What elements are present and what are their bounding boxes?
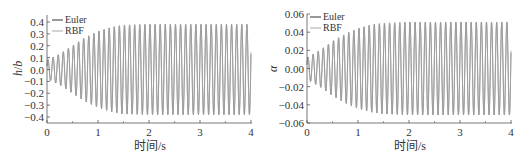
y-tick-label: −0.1	[24, 75, 44, 87]
right-y-label: α	[266, 65, 280, 72]
left-chart: 01234 0.40.30.20.10.0−0.1−0.2−0.3−0.4 Eu…	[11, 14, 254, 153]
y-tick-label: 0.4	[30, 16, 44, 28]
y-tick-label: −0.02	[279, 81, 304, 93]
x-tick-label: 0	[304, 126, 310, 138]
legend-euler-label: Euler	[323, 11, 345, 22]
right-legend: Euler RBF	[310, 11, 345, 33]
right-y-ticks: 0.060.040.020.00−0.02−0.04−0.06	[279, 8, 310, 129]
y-tick-label: −0.06	[279, 117, 305, 129]
left-y-label: h/b	[11, 61, 25, 76]
left-series-lines	[47, 24, 251, 114]
y-tick-label: 0.04	[285, 26, 305, 38]
y-tick-label: 0.06	[285, 8, 305, 20]
y-tick-label: −0.2	[24, 87, 44, 99]
x-tick-label: 4	[248, 126, 254, 138]
chart-canvas: 01234 0.40.30.20.10.0−0.1−0.2−0.3−0.4 Eu…	[0, 0, 523, 158]
x-tick-label: 1	[95, 126, 101, 138]
y-tick-label: 0.0	[30, 64, 44, 76]
x-tick-label: 2	[146, 126, 152, 138]
series-rbf-line	[47, 24, 251, 114]
y-tick-label: −0.3	[24, 99, 44, 111]
legend-rbf-label: RBF	[323, 22, 342, 33]
right-series-lines	[307, 22, 511, 115]
x-tick-label: 3	[197, 126, 203, 138]
x-tick-label: 1	[355, 126, 361, 138]
x-tick-label: 3	[457, 126, 463, 138]
y-tick-label: 0.2	[30, 40, 44, 52]
y-tick-label: 0.1	[30, 52, 44, 64]
y-tick-label: 0.3	[30, 28, 44, 40]
x-tick-label: 4	[508, 126, 514, 138]
legend-euler-label: Euler	[65, 14, 87, 25]
y-tick-label: 0.00	[285, 63, 305, 75]
y-tick-label: −0.4	[24, 111, 44, 123]
x-tick-label: 0	[44, 126, 50, 138]
series-rbf-line	[307, 22, 511, 114]
right-x-label: 时间/s	[394, 139, 426, 153]
y-tick-label: −0.04	[279, 99, 305, 111]
left-legend: Euler RBF	[52, 14, 87, 36]
x-tick-label: 2	[406, 126, 412, 138]
right-chart: 01234 0.060.040.020.00−0.02−0.04−0.06 Eu…	[266, 8, 514, 153]
y-tick-label: 0.02	[285, 44, 304, 56]
legend-rbf-label: RBF	[65, 25, 84, 36]
left-x-label: 时间/s	[134, 139, 166, 153]
left-y-ticks: 0.40.30.20.10.0−0.1−0.2−0.3−0.4	[24, 16, 50, 123]
